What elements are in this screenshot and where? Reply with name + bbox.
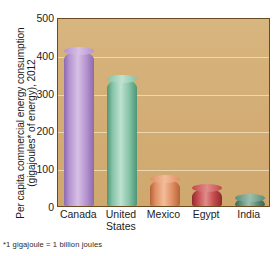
y-tick-300: 300 xyxy=(28,88,54,100)
x-axis-tick-labels: CanadaUnitedStatesMexicoEgyptIndia xyxy=(57,209,270,243)
bar-cap xyxy=(150,175,180,183)
energy-consumption-bar-chart: Per capita commercial energy consumption… xyxy=(0,0,277,256)
bar-cap xyxy=(107,75,137,83)
x-tick-mexico: Mexico xyxy=(142,209,185,221)
bar-india xyxy=(235,198,265,206)
x-tick-line-1: India xyxy=(227,209,270,221)
bar-mexico xyxy=(150,179,180,206)
x-tick-india: India xyxy=(227,209,270,221)
bar-cap xyxy=(64,47,94,55)
x-tick-egypt: Egypt xyxy=(185,209,228,221)
x-tick-line-1: United xyxy=(100,209,143,221)
x-tick-line-2: States xyxy=(100,221,143,233)
plot-area xyxy=(57,18,270,207)
footnote: *1 gigajoule = 1 billion joules xyxy=(3,240,102,249)
x-tick-line-1: Egypt xyxy=(185,209,228,221)
bar-canada xyxy=(64,51,94,206)
y-tick-0: 0 xyxy=(28,201,54,213)
x-tick-canada: Canada xyxy=(57,209,100,221)
bar-cap xyxy=(192,184,222,192)
x-tick-line-1: Mexico xyxy=(142,209,185,221)
bar-series xyxy=(58,19,269,206)
bar-united-states xyxy=(107,79,137,206)
y-tick-100: 100 xyxy=(28,163,54,175)
y-tick-500: 500 xyxy=(28,12,54,24)
x-tick-line-1: Canada xyxy=(57,209,100,221)
y-axis-tick-labels: 0100200300400500 xyxy=(24,0,54,256)
x-tick-united-states: UnitedStates xyxy=(100,209,143,232)
bar-cap xyxy=(235,194,265,202)
y-tick-200: 200 xyxy=(28,125,54,137)
y-tick-400: 400 xyxy=(28,50,54,62)
bar-egypt xyxy=(192,188,222,206)
